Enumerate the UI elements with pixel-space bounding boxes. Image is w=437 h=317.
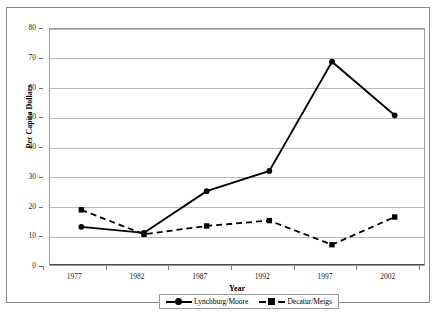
data-point-marker — [204, 188, 210, 194]
y-tick-label: 0 — [2, 262, 36, 270]
y-tick-mark — [39, 58, 43, 59]
y-tick-label: 30 — [2, 173, 36, 181]
y-tick-label: 40 — [2, 143, 36, 151]
x-axis-title: Year — [49, 284, 425, 293]
y-tick-label: 60 — [2, 84, 36, 92]
x-tick-mark — [43, 266, 44, 270]
data-point-marker — [266, 168, 272, 174]
figure-frame: Per Capita Dollars 01020304050607080 197… — [6, 7, 430, 303]
data-point-marker — [141, 232, 146, 237]
x-tick-label: 1997 — [299, 272, 351, 281]
y-tick-mark — [39, 177, 43, 178]
x-tick-mark — [356, 266, 357, 270]
legend-item-decatur-meigs: Decatur/Meigs — [259, 297, 332, 306]
y-tick-mark — [39, 236, 43, 237]
x-tick-mark — [168, 266, 169, 270]
y-tick-label: 20 — [2, 203, 36, 211]
legend-swatch-solid-circle-icon — [166, 297, 192, 306]
x-tick-mark — [106, 266, 107, 270]
legend-item-lynchburg-moore: Lynchburg/Moore — [166, 297, 248, 306]
y-tick-mark — [39, 28, 43, 29]
x-tick-mark — [231, 266, 232, 270]
series-layer — [50, 29, 426, 267]
y-tick-label: 80 — [2, 24, 36, 32]
y-tick-label: 50 — [2, 113, 36, 121]
x-tick-label: 1987 — [174, 272, 226, 281]
x-tick-mark — [294, 266, 295, 270]
data-point-marker — [204, 223, 209, 228]
x-tick-label: 2002 — [362, 272, 414, 281]
x-tick-mark — [419, 266, 420, 270]
legend-label: Decatur/Meigs — [287, 297, 332, 306]
data-point-marker — [78, 224, 84, 230]
x-tick-label: 1977 — [48, 272, 100, 281]
data-point-marker — [392, 214, 397, 219]
chart-legend: Lynchburg/Moore Decatur/Meigs — [159, 294, 339, 309]
x-tick-label: 1982 — [111, 272, 163, 281]
data-point-marker — [329, 242, 334, 247]
data-point-marker — [267, 218, 272, 223]
y-tick-mark — [39, 147, 43, 148]
legend-swatch-dashed-square-icon — [259, 297, 285, 306]
y-tick-label: 70 — [2, 54, 36, 62]
y-tick-mark — [39, 88, 43, 89]
series-line — [81, 210, 394, 245]
chart-figure: Per Capita Dollars 01020304050607080 197… — [0, 0, 437, 317]
x-tick-label: 1992 — [236, 272, 288, 281]
y-tick-mark — [39, 117, 43, 118]
data-point-marker — [79, 207, 84, 212]
data-point-marker — [329, 59, 335, 65]
data-point-marker — [392, 112, 398, 118]
plot-area — [49, 28, 425, 266]
y-tick-mark — [39, 207, 43, 208]
y-tick-label: 10 — [2, 232, 36, 240]
legend-label: Lynchburg/Moore — [194, 297, 248, 306]
series-line — [81, 62, 394, 233]
